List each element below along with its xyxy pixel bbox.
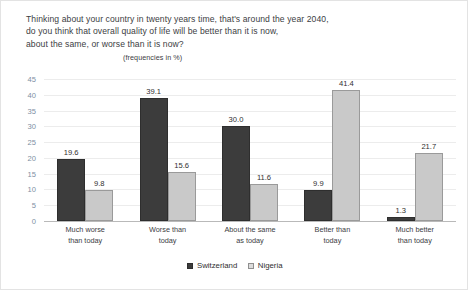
category-label-line: today — [291, 236, 373, 247]
bar-group: 9.941.4 — [291, 79, 373, 221]
bar-group: 39.115.6 — [126, 79, 208, 221]
bar-switzerland-3[interactable] — [304, 190, 332, 221]
chart-container: Thinking about your country in twenty ye… — [0, 0, 468, 290]
plot-area: 19.69.839.115.630.011.69.941.41.321.7 — [44, 79, 456, 221]
legend-label: Nigeria — [258, 261, 283, 270]
title-line-1: Thinking about your country in twenty ye… — [26, 13, 446, 25]
chart-legend: SwitzerlandNigeria — [1, 261, 468, 270]
bar-value-label: 11.6 — [244, 173, 284, 182]
bar-switzerland-4[interactable] — [387, 217, 415, 221]
bar-nigeria-1[interactable] — [168, 172, 196, 221]
y-tick-label-30: 30 — [28, 122, 36, 131]
category-label-1: Worse thantoday — [126, 225, 208, 246]
y-tick-label-5: 5 — [32, 201, 36, 210]
legend-swatch-icon — [187, 263, 193, 269]
y-tick-label-20: 20 — [28, 153, 36, 162]
bar-value-label: 41.4 — [326, 79, 366, 88]
y-tick-label-10: 10 — [28, 185, 36, 194]
y-tick-label-45: 45 — [28, 75, 36, 84]
category-label-3: Better thantoday — [291, 225, 373, 246]
y-tick-label-35: 35 — [28, 106, 36, 115]
chart-subtitle: (frequencies in %) — [123, 53, 182, 62]
gridline-0 — [44, 221, 456, 222]
legend-item-switzerland[interactable]: Switzerland — [187, 261, 237, 270]
chart-title: Thinking about your country in twenty ye… — [26, 13, 446, 50]
legend-item-nigeria[interactable]: Nigeria — [248, 261, 282, 270]
category-label-0: Much worsethan today — [44, 225, 126, 246]
legend-swatch-icon — [248, 263, 254, 269]
y-tick-label-0: 0 — [32, 217, 36, 226]
legend-label: Switzerland — [197, 261, 237, 270]
bar-group: 19.69.8 — [44, 79, 126, 221]
y-tick-label-40: 40 — [28, 90, 36, 99]
bar-value-label: 9.8 — [79, 179, 119, 188]
bar-switzerland-0[interactable] — [57, 159, 85, 221]
category-label-line: Better than — [291, 225, 373, 236]
bar-group: 30.011.6 — [209, 79, 291, 221]
category-label-line: Much better — [374, 225, 456, 236]
bar-nigeria-3[interactable] — [332, 90, 360, 221]
category-label-line: Worse than — [126, 225, 208, 236]
title-line-2: do you think that overall quality of lif… — [26, 25, 446, 37]
bar-nigeria-4[interactable] — [415, 153, 443, 221]
x-axis-categories: Much worsethan todayWorse thantodayAbout… — [44, 225, 456, 251]
bar-value-label: 19.6 — [51, 148, 91, 157]
bar-value-label: 21.7 — [409, 142, 449, 151]
category-label-4: Much betterthan today — [374, 225, 456, 246]
bar-value-label: 30.0 — [216, 115, 256, 124]
category-label-line: Much worse — [44, 225, 126, 236]
y-axis-ticks: 051015202530354045 — [1, 79, 41, 221]
category-label-line: than today — [374, 236, 456, 247]
bar-value-label: 39.1 — [134, 87, 174, 96]
category-label-line: About the same — [209, 225, 291, 236]
category-label-2: About the sameas today — [209, 225, 291, 246]
y-tick-label-15: 15 — [28, 169, 36, 178]
title-line-3: about the same, or worse than it is now? — [26, 38, 446, 50]
category-label-line: today — [126, 236, 208, 247]
y-tick-label-25: 25 — [28, 138, 36, 147]
bar-switzerland-1[interactable] — [140, 98, 168, 221]
bar-group: 1.321.7 — [374, 79, 456, 221]
bar-nigeria-0[interactable] — [85, 190, 113, 221]
bar-value-label: 15.6 — [162, 161, 202, 170]
category-label-line: as today — [209, 236, 291, 247]
bar-nigeria-2[interactable] — [250, 184, 278, 221]
category-label-line: than today — [44, 236, 126, 247]
